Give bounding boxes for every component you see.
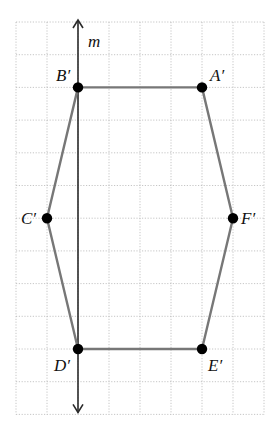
vertex-label: F′ [240, 209, 255, 228]
vertex-label: D′ [53, 356, 70, 375]
vertex-dot [73, 344, 83, 354]
vertex-dot [73, 82, 83, 92]
diagram-canvas: m A′B′C′D′E′F′ [0, 0, 272, 432]
vertex-dot [42, 213, 52, 223]
vertex-dot [228, 213, 238, 223]
vertex-label: C′ [21, 209, 36, 228]
hexagon-reflection-diagram: m A′B′C′D′E′F′ [0, 0, 272, 432]
vertex-label: A′ [209, 66, 224, 85]
vertex-label: B′ [56, 66, 70, 85]
vertex-dot [197, 82, 207, 92]
vertex-dot [197, 344, 207, 354]
vertex-labels: A′B′C′D′E′F′ [21, 66, 255, 375]
axis-label-m: m [88, 32, 100, 51]
vertex-label: E′ [207, 356, 222, 375]
